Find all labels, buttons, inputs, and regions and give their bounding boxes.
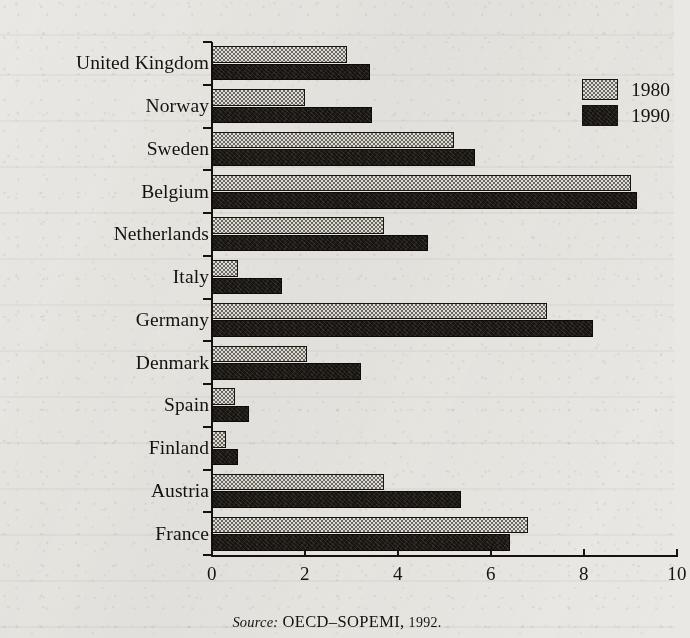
bar-1990 xyxy=(212,320,593,337)
category-label: Belgium xyxy=(141,181,209,203)
bar-1990 xyxy=(212,235,428,252)
source-year: 1992. xyxy=(409,615,442,630)
bar-1990 xyxy=(212,64,370,81)
category-label: United Kingdom xyxy=(76,52,209,74)
category-label: Denmark xyxy=(136,352,209,374)
x-axis-tick xyxy=(676,549,678,557)
y-axis-tick xyxy=(203,298,212,300)
y-axis-tick xyxy=(203,84,212,86)
chart-legend: 1980 1990 xyxy=(582,76,670,128)
bar-1980 xyxy=(212,346,307,363)
legend-entry-1980: 1980 xyxy=(582,76,670,102)
category-label: Sweden xyxy=(147,138,209,160)
y-axis-tick xyxy=(203,41,212,43)
category-label: Austria xyxy=(151,480,209,502)
category-label: Norway xyxy=(146,95,209,117)
bar-1990 xyxy=(212,278,282,295)
bar-1980 xyxy=(212,260,238,277)
category-label: Netherlands xyxy=(114,223,209,245)
y-axis-tick xyxy=(203,383,212,385)
bar-1990 xyxy=(212,192,637,209)
category-label: Spain xyxy=(164,394,209,416)
y-axis-tick xyxy=(203,127,212,129)
source-word: Source: xyxy=(232,614,278,630)
category-label: Italy xyxy=(173,266,209,288)
bar-1980 xyxy=(212,474,384,491)
x-axis-tick-label: 8 xyxy=(579,562,589,586)
y-axis-tick xyxy=(203,169,212,171)
x-axis-tick xyxy=(304,549,306,557)
x-axis-tick-label: 10 xyxy=(667,562,687,586)
category-label: Finland xyxy=(149,437,209,459)
category-label: France xyxy=(155,523,209,545)
bar-1980 xyxy=(212,217,384,234)
category-label: Germany xyxy=(136,309,209,331)
x-axis-tick-label: 2 xyxy=(300,562,310,586)
x-axis-tick-label: 4 xyxy=(393,562,403,586)
y-axis-tick xyxy=(203,212,212,214)
legend-swatch-1980-icon xyxy=(582,79,618,100)
bar-1990 xyxy=(212,449,238,466)
y-axis-tick xyxy=(203,511,212,513)
bar-1980 xyxy=(212,89,305,106)
bar-1980 xyxy=(212,303,547,320)
legend-label-1990: 1990 xyxy=(631,105,670,126)
x-axis-tick xyxy=(211,549,213,557)
y-axis-tick xyxy=(203,426,212,428)
source-caption: Source: OECD–SOPEMI, 1992. xyxy=(40,612,634,633)
bar-1990 xyxy=(212,149,475,166)
x-axis-tick xyxy=(583,549,585,557)
y-axis-tick xyxy=(203,255,212,257)
bar-1990 xyxy=(212,107,372,124)
legend-entry-1990: 1990 xyxy=(582,102,670,128)
x-axis-line xyxy=(211,555,678,557)
bar-1990 xyxy=(212,363,361,380)
x-axis-tick xyxy=(397,549,399,557)
horizontal-bar-chart: United KingdomNorwaySwedenBelgiumNetherl… xyxy=(40,16,634,622)
bar-1980 xyxy=(212,175,631,192)
y-axis-tick xyxy=(203,469,212,471)
bar-1990 xyxy=(212,491,461,508)
x-axis-tick-label: 0 xyxy=(207,562,217,586)
bar-1980 xyxy=(212,388,235,405)
bar-1980 xyxy=(212,517,528,534)
source-body: OECD–SOPEMI, xyxy=(282,612,404,631)
bar-1980 xyxy=(212,132,454,149)
x-axis-tick-label: 6 xyxy=(486,562,496,586)
legend-label-1980: 1980 xyxy=(631,79,670,100)
bar-1990 xyxy=(212,534,510,551)
bar-1980 xyxy=(212,46,347,63)
bar-1990 xyxy=(212,406,249,423)
y-axis-tick xyxy=(203,340,212,342)
x-axis-tick xyxy=(490,549,492,557)
bar-1980 xyxy=(212,431,226,448)
legend-swatch-1990-icon xyxy=(582,105,618,126)
